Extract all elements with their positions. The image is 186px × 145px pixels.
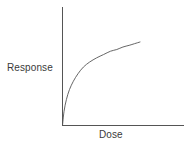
x-axis-label: Dose [99,129,123,141]
dose-response-chart: Response Dose [0,0,186,145]
y-axis-label: Response [7,62,53,74]
dose-response-curve [63,42,141,126]
